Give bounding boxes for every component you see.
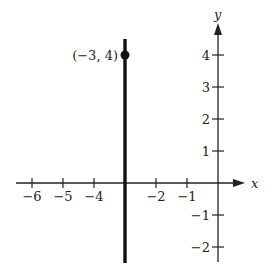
x-axis-label: x (251, 176, 259, 191)
y-tick-label: 3 (202, 80, 210, 95)
y-tick-label: −2 (191, 240, 210, 255)
x-tick-label: −1 (177, 189, 196, 204)
y-tick-label: 4 (202, 48, 210, 63)
coordinate-plane: xy−6−5−4−2−14321−1−2(−3, 4) (0, 0, 266, 279)
x-tick-label: −2 (146, 189, 165, 204)
x-tick-label: −5 (53, 189, 72, 204)
y-axis-arrow-icon (214, 23, 222, 35)
point-marker (121, 51, 130, 60)
x-axis-arrow-icon (233, 179, 245, 187)
axes (16, 23, 245, 262)
x-tick-label: −4 (84, 189, 103, 204)
labels: xy−6−5−4−2−14321−1−2(−3, 4) (22, 7, 259, 255)
y-tick-label: 2 (202, 112, 210, 127)
y-axis-label: y (213, 7, 222, 22)
point-label: (−3, 4) (72, 48, 118, 63)
x-tick-label: −6 (22, 189, 41, 204)
y-tick-label: −1 (191, 208, 210, 223)
data-series (121, 39, 130, 263)
y-tick-label: 1 (202, 144, 210, 159)
